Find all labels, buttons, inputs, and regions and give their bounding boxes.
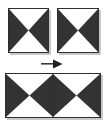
- bowtie-tile-right: [57, 8, 99, 53]
- tile-shadow: [49, 10, 51, 55]
- right-arrow-icon: [41, 59, 63, 69]
- figure-root: [0, 0, 107, 123]
- right-arrow-glyph: [41, 59, 63, 69]
- double-bowtie-pattern-icon: [6, 74, 100, 117]
- bowtie-pattern-left-icon: [9, 9, 48, 52]
- bowtie-tile-left: [8, 8, 49, 53]
- bowtie-pattern-right-icon: [58, 9, 98, 52]
- tile-shadow: [99, 10, 101, 55]
- tile-shadow: [7, 118, 103, 120]
- tile-shadow: [59, 53, 101, 55]
- tile-shadow: [10, 53, 51, 55]
- combined-bowtie-rectangle: [5, 73, 101, 118]
- tile-shadow: [101, 75, 103, 120]
